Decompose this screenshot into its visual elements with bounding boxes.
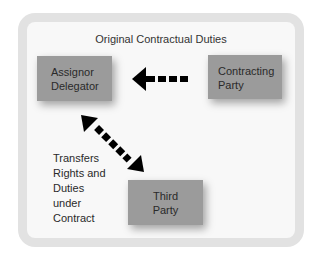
- dashed-left-arrow-icon: [132, 67, 188, 91]
- dashed-double-arrow-icon: [81, 115, 144, 172]
- arrows-layer: [0, 0, 318, 261]
